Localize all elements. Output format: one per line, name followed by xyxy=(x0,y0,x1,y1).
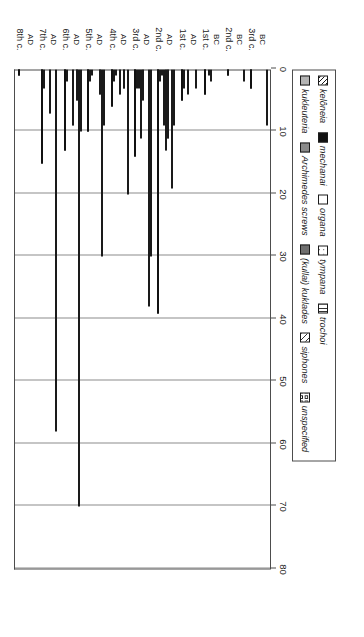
bar-groups xyxy=(14,69,270,569)
legend-label: Archimedes screws xyxy=(300,155,310,235)
legend-item[interactable]: (kullai) kuklades xyxy=(300,244,310,323)
legend-swatch-icon xyxy=(318,245,328,255)
category-label: BC1st c. xyxy=(201,16,221,62)
bar xyxy=(183,69,185,88)
value-axis-line xyxy=(270,69,271,569)
bar-group xyxy=(200,69,223,569)
legend-item[interactable]: trochoi xyxy=(318,303,328,344)
legend-swatch-icon xyxy=(300,142,310,152)
value-tick-label: 80 xyxy=(278,555,289,583)
axis-tick xyxy=(271,442,276,443)
bar xyxy=(55,69,57,432)
legend-item[interactable]: siphones xyxy=(300,332,310,382)
category-label: AD3rd c. xyxy=(131,16,151,62)
value-tick-label: 50 xyxy=(278,368,289,396)
legend-label: mechanai xyxy=(318,145,328,185)
rotated-canvas: 01020304050607080 BC3rd c.BC2nd c.BC1st … xyxy=(0,0,364,637)
legend-swatch-icon xyxy=(300,332,310,342)
bar-group xyxy=(37,69,60,569)
category-label: AD5th c. xyxy=(84,16,104,62)
legend-item[interactable]: kukleuteria xyxy=(300,75,310,133)
value-tick-label: 20 xyxy=(278,180,289,208)
legend-swatch-icon xyxy=(300,392,310,402)
bar xyxy=(173,69,175,125)
bar xyxy=(243,69,245,82)
bar-group xyxy=(177,69,200,569)
bar xyxy=(119,69,121,94)
legend-swatch-icon xyxy=(318,303,328,313)
axis-tick xyxy=(271,67,276,68)
bar xyxy=(195,69,197,88)
bar xyxy=(227,69,229,75)
legend-label: kukleuteria xyxy=(300,89,310,133)
bar xyxy=(91,69,93,75)
bar xyxy=(49,69,51,113)
figure-body: 01020304050607080 BC3rd c.BC2nd c.BC1st … xyxy=(0,0,364,637)
bar xyxy=(204,69,206,94)
category-label: AD6th c. xyxy=(61,16,81,62)
bar xyxy=(66,69,68,82)
bar xyxy=(187,69,189,94)
axis-tick xyxy=(271,567,276,568)
axis-tick xyxy=(271,317,276,318)
category-label: AD8th c. xyxy=(15,16,35,62)
bar-group xyxy=(107,69,130,569)
bar-group xyxy=(130,69,153,569)
axis-tick xyxy=(271,380,276,381)
axis-tick xyxy=(271,255,276,256)
bar-group xyxy=(61,69,84,569)
value-tick-label: 40 xyxy=(278,305,289,333)
bar-group xyxy=(84,69,107,569)
legend-swatch-icon xyxy=(318,132,328,142)
bar xyxy=(78,69,80,507)
legend-label: trochoi xyxy=(318,316,328,344)
legend-swatch-icon xyxy=(318,194,328,204)
axis-tick xyxy=(271,192,276,193)
legend-item[interactable]: Archimedes screws xyxy=(300,142,310,235)
bar xyxy=(167,69,169,138)
legend-row: kelôneiamechanaiorganatympanatrochoi xyxy=(314,75,332,455)
bar xyxy=(142,69,144,100)
legend-row: kukleuteriaArchimedes screws(kullai) kuk… xyxy=(296,75,314,455)
bar xyxy=(115,69,117,75)
value-tick-label: 0 xyxy=(278,55,289,83)
legend-swatch-icon xyxy=(318,75,328,85)
legend-swatch-icon xyxy=(300,75,310,85)
legend-item[interactable]: unspecified xyxy=(300,392,310,452)
bar xyxy=(157,69,159,313)
legend-label: siphones xyxy=(300,346,310,383)
value-tick-label: 30 xyxy=(278,243,289,271)
bar xyxy=(18,69,20,75)
category-label: BC2nd c. xyxy=(224,16,244,62)
value-tick-label: 60 xyxy=(278,430,289,458)
bar xyxy=(250,69,252,88)
bar xyxy=(72,69,74,125)
legend-item[interactable]: tympana xyxy=(318,245,328,294)
category-label: BC3rd c. xyxy=(247,16,267,62)
category-label: AD7th c. xyxy=(38,16,58,62)
legend-label: unspecified xyxy=(300,405,310,451)
legend-label: organa xyxy=(318,208,328,237)
legend-label: tympana xyxy=(318,259,328,294)
legend-item[interactable]: kelôneia xyxy=(318,75,328,123)
bar-group xyxy=(154,69,177,569)
legend-item[interactable]: organa xyxy=(318,194,328,236)
value-tick-label: 10 xyxy=(278,118,289,146)
bar xyxy=(150,69,152,257)
chart-legend: kelôneiamechanaiorganatympanatrochoikukl… xyxy=(292,69,336,461)
category-label: AD4th c. xyxy=(108,16,128,62)
legend-label: (kullai) kuklades xyxy=(300,258,310,324)
value-tick-label: 70 xyxy=(278,493,289,521)
legend-label: kelôneia xyxy=(318,89,328,123)
bar xyxy=(127,69,129,194)
bar xyxy=(123,69,125,88)
axis-tick xyxy=(271,505,276,506)
bar xyxy=(43,69,45,88)
chart-figure: 01020304050607080 BC3rd c.BC2nd c.BC1st … xyxy=(0,0,364,637)
legend-inner: kelôneiamechanaiorganatympanatrochoikukl… xyxy=(296,75,332,455)
bar-group xyxy=(223,69,246,569)
bar xyxy=(266,69,268,125)
legend-swatch-icon xyxy=(300,244,310,254)
legend-item[interactable]: mechanai xyxy=(318,132,328,185)
bar-group xyxy=(247,69,270,569)
